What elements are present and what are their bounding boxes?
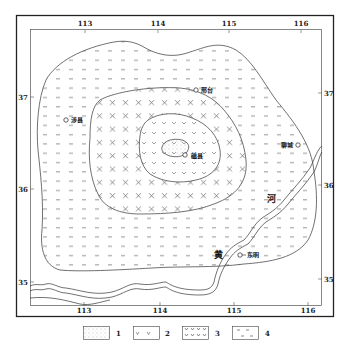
place-label-sheixian: 涉县	[71, 116, 83, 124]
top-tick-116: 116	[294, 19, 309, 28]
city-marker-icon	[296, 143, 300, 147]
legend-item-4: 4	[233, 327, 271, 340]
city-marker-icon	[64, 118, 68, 122]
top-tick-113: 113	[78, 19, 93, 28]
river-label-he: 河	[267, 193, 276, 204]
bottom-tick-116: 116	[301, 306, 316, 315]
place-label-xingtai: 邢台	[200, 86, 213, 94]
bottom-tick-115: 115	[227, 306, 242, 315]
legend-label-1: 1	[116, 329, 121, 338]
legend-label-3: 3	[215, 329, 220, 338]
bottom-tick-114: 114	[153, 306, 168, 315]
top-tick-115: 115	[222, 19, 237, 28]
place-label-liaocheng: 聊城	[281, 141, 293, 149]
right-tick-37: 37	[324, 89, 334, 98]
map-canvas: 113 114 115 116 113 114 115 116 37 36 35…	[0, 0, 348, 351]
left-tick-37: 37	[18, 93, 28, 102]
city-marker-icon	[183, 153, 187, 157]
place-label-dongming: 东明	[247, 251, 259, 259]
top-tick-114: 114	[151, 19, 166, 28]
city-marker-icon	[238, 253, 242, 257]
legend-label-2: 2	[165, 329, 170, 338]
city-marker-icon	[194, 88, 198, 92]
right-tick-36: 36	[324, 181, 334, 190]
left-tick-35: 35	[18, 278, 28, 287]
legend-label-4: 4	[265, 329, 270, 338]
river-label-huang: 黄	[214, 249, 223, 260]
place-label-cixian: 磁县	[191, 152, 203, 160]
legend-item-2: 2	[134, 327, 171, 340]
bottom-tick-113: 113	[77, 306, 92, 315]
legend-item-3: 3	[183, 327, 221, 340]
left-tick-36: 36	[18, 185, 28, 194]
legend-item-1: 1	[84, 327, 122, 340]
right-tick-35: 35	[324, 275, 334, 284]
legend: 1 2 3 4	[84, 327, 271, 340]
